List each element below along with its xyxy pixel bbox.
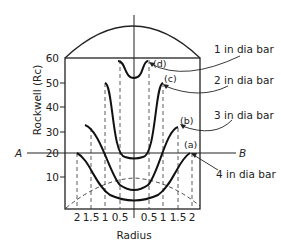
y-tick-labels: 60 50 40 30 20 10 <box>46 52 59 183</box>
tag-c: (c) <box>164 73 177 84</box>
y-tick-30: 30 <box>46 126 59 138</box>
rockwell-hardness-chart: 60 50 40 30 20 10 A B Rockwell (Rc) (d) … <box>0 0 281 247</box>
y-tick-20: 20 <box>46 147 59 159</box>
y-tick-60: 60 <box>46 52 59 64</box>
x-tick-left-1-5: 1.5 <box>83 211 100 223</box>
plot-frame <box>65 58 200 209</box>
tag-a: (a) <box>184 139 197 150</box>
line-a-label: A <box>14 147 22 159</box>
line-b-label: B <box>239 147 246 159</box>
y-tick-10: 10 <box>46 171 59 183</box>
x-tick-right-1: 1 <box>160 211 167 223</box>
x-tick-left-0-5: 0.5 <box>112 211 129 223</box>
x-tick-left-1: 1 <box>102 211 109 223</box>
y-tick-50: 50 <box>46 77 59 89</box>
x-tick-right-0-5: 0.5 <box>141 211 158 223</box>
y-axis-title: Rockwell (Rc) <box>31 65 43 136</box>
curve-d-1in-bar <box>118 61 148 78</box>
cross-section-arc <box>65 26 200 58</box>
dashed-parabola <box>66 178 200 208</box>
x-tick-right-1-5: 1.5 <box>170 211 187 223</box>
x-axis-title: Radius <box>116 229 151 241</box>
x-tick-left-2: 2 <box>74 211 81 223</box>
label-2in-bar: 2 in dia bar <box>214 74 274 86</box>
label-3in-bar: 3 in dia bar <box>214 109 274 121</box>
x-tick-right-2: 2 <box>189 211 196 223</box>
label-1in-bar: 1 in dia bar <box>214 43 274 55</box>
y-tick-40: 40 <box>46 101 59 113</box>
y-ticks <box>60 83 65 177</box>
label-4in-bar: 4 in dia bar <box>216 168 276 180</box>
